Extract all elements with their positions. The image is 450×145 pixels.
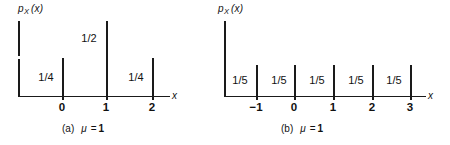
- x-axis-b: [224, 96, 426, 98]
- x-tick-b-2: [333, 96, 335, 100]
- stem-b-3: [372, 65, 374, 96]
- value-label-b-2: 1/5: [303, 75, 331, 86]
- y-axis-label-subscript-b: X: [224, 7, 230, 16]
- x-tick-label-b-1: 0: [284, 102, 304, 114]
- x-tick-label-b-2: 1: [323, 102, 343, 114]
- x-variable-label-a: x: [172, 91, 177, 101]
- x-tick-b-1: [294, 96, 296, 100]
- x-tick-label-a-1: 1: [96, 102, 116, 114]
- x-tick-label-b-3: 2: [362, 102, 382, 114]
- y-axis-label-b: pX(x): [218, 4, 243, 16]
- stem-b-2: [333, 65, 335, 96]
- panel-a: pX(x) 1/4 1/2 1/4 0 1 2 x (a)μ=1: [0, 0, 225, 145]
- value-label-a-1: 1/2: [75, 33, 103, 44]
- caption-mu-a: μ: [81, 123, 88, 134]
- caption-value-b: 1: [318, 123, 324, 134]
- stem-b-4: [410, 65, 412, 96]
- caption-tag-b: (b): [281, 123, 300, 134]
- caption-eq-b: =: [308, 123, 318, 134]
- y-axis-label-symbol-a: p: [18, 3, 24, 14]
- stem-b-0: [256, 65, 258, 96]
- value-label-b-0: 1/5: [226, 75, 254, 86]
- caption-tag-a: (a): [62, 123, 81, 134]
- stem-a-0: [62, 58, 64, 96]
- caption-eq-a: =: [89, 123, 99, 134]
- x-tick-a-2: [152, 96, 154, 100]
- y-axis-label-subscript-a: X: [24, 7, 30, 16]
- y-axis-label-symbol-b: p: [218, 3, 224, 14]
- panel-b: pX(x) 1/5 1/5 1/5 1/5 1/5 −1 0 1 2 3 x (…: [208, 0, 450, 145]
- value-label-b-3: 1/5: [342, 75, 370, 86]
- x-tick-label-b-0: −1: [246, 102, 266, 114]
- x-tick-b-4: [410, 96, 412, 100]
- y-axis-label-arg-a: (x): [30, 3, 44, 14]
- stem-a-1: [106, 21, 108, 96]
- caption-b: (b)μ=1: [281, 124, 323, 134]
- y-axis-label-a: pX(x): [18, 4, 43, 16]
- value-label-a-0: 1/4: [32, 72, 60, 83]
- x-tick-a-0: [62, 96, 64, 100]
- figure-container: pX(x) 1/4 1/2 1/4 0 1 2 x (a)μ=1 pX(x): [0, 0, 450, 145]
- x-tick-label-a-2: 2: [142, 102, 162, 114]
- value-label-b-1: 1/5: [265, 75, 293, 86]
- caption-a: (a)μ=1: [62, 124, 104, 134]
- stem-a-2: [152, 58, 154, 96]
- x-tick-a-1: [106, 96, 108, 100]
- x-tick-b-3: [372, 96, 374, 100]
- x-tick-label-a-0: 0: [52, 102, 72, 114]
- caption-value-a: 1: [99, 123, 105, 134]
- x-tick-label-b-4: 3: [400, 102, 420, 114]
- y-axis-label-arg-b: (x): [230, 3, 244, 14]
- value-label-a-2: 1/4: [122, 72, 150, 83]
- caption-mu-b: μ: [300, 123, 307, 134]
- x-axis-a: [18, 96, 170, 98]
- stem-b-1: [294, 65, 296, 96]
- y-axis-notch-a: [18, 56, 20, 59]
- value-label-b-4: 1/5: [380, 75, 408, 86]
- x-tick-b-0: [256, 96, 258, 100]
- x-variable-label-b: x: [428, 91, 433, 101]
- y-axis-a: [18, 21, 20, 97]
